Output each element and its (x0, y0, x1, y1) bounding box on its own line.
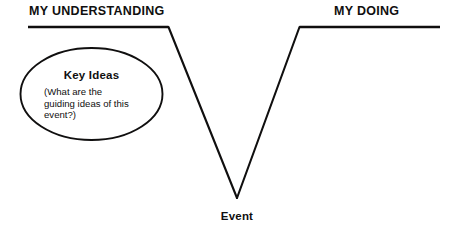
key-ideas-heading: Key Ideas (20, 69, 163, 82)
v-diagram-canvas: MY UNDERSTANDING MY DOING Key Ideas (Wha… (0, 0, 454, 235)
key-ideas-prompt: (What are the guiding ideas of this even… (44, 86, 156, 121)
title-my-understanding: MY UNDERSTANDING (29, 4, 165, 18)
right-arm (237, 27, 300, 198)
key-ideas-prompt-line-3: event?) (44, 109, 156, 121)
event-label: Event (187, 210, 287, 222)
key-ideas-prompt-line-1: (What are the (44, 86, 156, 98)
left-arm (169, 27, 238, 198)
title-my-doing: MY DOING (334, 4, 399, 18)
key-ideas-prompt-line-2: guiding ideas of this (44, 98, 156, 110)
